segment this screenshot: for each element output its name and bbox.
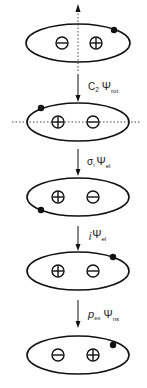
operation-label: iΨel	[89, 228, 106, 242]
minus-sign-icon	[56, 37, 68, 49]
minus-sign-icon	[87, 116, 99, 128]
minus-sign-icon	[52, 349, 64, 361]
down-arrow-icon	[76, 95, 81, 102]
operation-label: C2Ψrot	[88, 80, 118, 94]
down-arrow-icon	[76, 321, 81, 328]
plus-sign-icon	[87, 349, 99, 361]
axis-up-arrow-icon	[76, 4, 81, 12]
minus-sign-icon	[87, 265, 99, 277]
state-4	[27, 252, 129, 290]
operation-4: pexΨns	[76, 300, 120, 328]
down-arrow-icon	[76, 169, 81, 176]
electron-dot-icon	[38, 105, 44, 111]
electron-dot-icon	[110, 342, 116, 348]
state-5	[27, 336, 129, 374]
electron-dot-icon	[38, 207, 44, 213]
state-1	[26, 4, 130, 73]
plus-sign-icon	[90, 37, 102, 49]
plus-sign-icon	[52, 116, 64, 128]
plus-sign-icon	[52, 265, 64, 277]
down-arrow-icon	[76, 244, 81, 251]
symmetry-operations-diagram: C2Ψrot σiΨel	[0, 0, 147, 388]
molecule-ellipse	[27, 336, 129, 374]
state-3	[27, 178, 129, 216]
operation-2: σiΨel	[76, 149, 111, 176]
operation-3: iΨel	[76, 226, 107, 251]
electron-dot-icon	[111, 27, 117, 33]
electron-dot-icon	[110, 254, 116, 260]
operation-label: σiΨel	[87, 155, 110, 169]
minus-sign-icon	[87, 191, 99, 203]
operation-label: pexΨns	[87, 308, 119, 322]
state-2	[12, 103, 140, 141]
operation-1: C2Ψrot	[76, 74, 119, 102]
plus-sign-icon	[52, 191, 64, 203]
